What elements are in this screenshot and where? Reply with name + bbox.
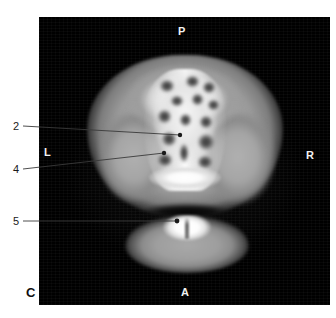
callout-label-5: 5 (13, 216, 19, 227)
callout-label-4: 4 (13, 164, 19, 175)
orientation-marker-left: L (44, 147, 51, 158)
air-cell (157, 153, 173, 167)
air-cell (202, 81, 216, 94)
tooth-fissure (185, 217, 189, 239)
air-cell (179, 113, 192, 127)
air-cell (207, 99, 220, 111)
air-cell (185, 75, 200, 88)
figure-panel-letter: C (26, 286, 35, 299)
air-cell (157, 109, 172, 124)
air-cell (197, 133, 215, 151)
air-cell (161, 131, 177, 147)
ct-image-panel: P L R A (39, 17, 330, 305)
air-cell (170, 95, 184, 107)
orientation-marker-right: R (306, 150, 314, 161)
callout-label-2: 2 (13, 121, 19, 132)
orientation-marker-anterior: A (181, 287, 189, 298)
air-cell (199, 115, 213, 129)
air-cell (191, 93, 204, 106)
orientation-marker-posterior: P (178, 26, 186, 37)
figure-container: P L R A 2 4 5 C (0, 0, 336, 318)
air-cell (159, 79, 175, 93)
nasal-septum-gap (179, 143, 189, 163)
